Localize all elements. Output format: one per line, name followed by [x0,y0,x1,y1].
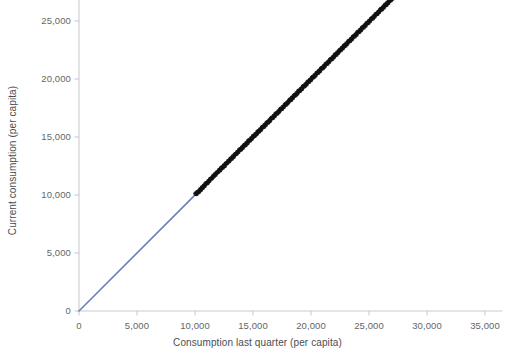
x-tick-label: 5,000 [107,320,167,331]
x-axis-title: Consumption last quarter (per capita) [0,337,515,348]
x-tick-label: 35,000 [455,320,515,331]
y-tick-label: 5,000 [28,247,71,258]
y-tick-label: 20,000 [28,73,71,84]
y-tick-label: 15,000 [28,131,71,142]
y-tick-label: 0 [28,305,71,316]
x-tick-label: 20,000 [281,320,341,331]
scatter-chart: 05,00010,00015,00020,00025,00030,00035,0… [0,0,515,361]
plot-area [0,0,515,361]
y-tick-label: 10,000 [28,189,71,200]
x-tick-label: 10,000 [165,320,225,331]
y-axis-title: Current consumption (per capita) [8,85,19,234]
x-tick-label: 30,000 [397,320,457,331]
reference-line [79,0,500,311]
x-tick-label: 15,000 [223,320,283,331]
x-tick-label: 25,000 [339,320,399,331]
data-points [193,0,468,196]
y-axis-title-wrap: Current consumption (per capita) [0,0,26,320]
axes [75,0,503,315]
y-tick-label: 25,000 [28,15,71,26]
x-tick-label: 0 [49,320,109,331]
